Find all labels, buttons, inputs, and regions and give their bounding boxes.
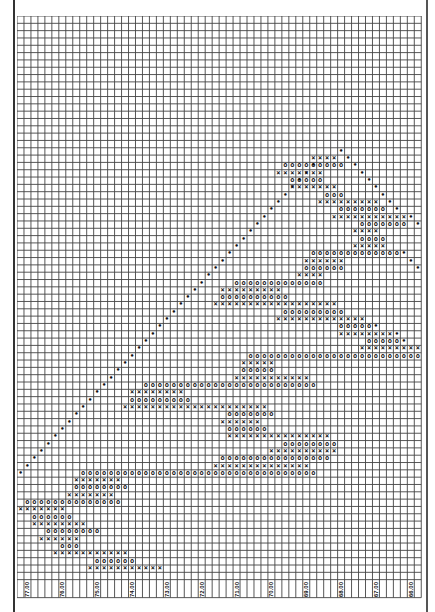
trend-dot: •	[393, 206, 400, 213]
o-box: o	[310, 280, 317, 287]
o-box: o	[372, 353, 379, 360]
x-box: ×	[240, 301, 247, 308]
x-box: ×	[289, 316, 296, 323]
trend-dot: •	[289, 184, 296, 191]
trend-dot: •	[338, 148, 345, 155]
x-box: ×	[268, 433, 275, 440]
trend-dot: •	[177, 301, 184, 308]
x-box: ×	[331, 448, 338, 455]
o-box: o	[324, 455, 331, 462]
o-box: o	[359, 250, 366, 257]
trend-dot: •	[73, 411, 80, 418]
o-box: o	[115, 484, 122, 491]
x-box: ×	[275, 301, 282, 308]
x-box: ×	[94, 565, 101, 572]
x-box: ×	[331, 316, 338, 323]
x-box: ×	[177, 404, 184, 411]
trend-dot: •	[66, 419, 73, 426]
o-box: o	[345, 353, 352, 360]
x-box: ×	[317, 316, 324, 323]
o-box: o	[393, 353, 400, 360]
x-box: ×	[163, 404, 170, 411]
o-box: o	[212, 382, 219, 389]
trend-dot: •	[359, 170, 366, 177]
price-tick-label: 71.00	[234, 582, 240, 597]
x-box: ×	[24, 506, 31, 513]
x-box: ×	[254, 433, 261, 440]
x-box: ×	[219, 301, 226, 308]
o-box: o	[303, 353, 310, 360]
o-box: o	[177, 470, 184, 477]
x-box: ×	[324, 199, 331, 206]
x-box: ×	[240, 433, 247, 440]
x-box: ×	[129, 404, 136, 411]
trend-dot: •	[240, 236, 247, 243]
o-box: o	[198, 382, 205, 389]
x-box: ×	[184, 404, 191, 411]
o-box: o	[296, 470, 303, 477]
o-box: o	[275, 470, 282, 477]
o-box: o	[400, 221, 407, 228]
trend-dot: •	[372, 184, 379, 191]
page-border-left	[13, 0, 15, 612]
o-box: o	[268, 470, 275, 477]
o-box: o	[386, 353, 393, 360]
x-box: ×	[296, 184, 303, 191]
o-box: o	[296, 280, 303, 287]
trend-dot: •	[233, 243, 240, 250]
x-box: ×	[52, 550, 59, 557]
x-box: ×	[303, 184, 310, 191]
o-box: o	[379, 221, 386, 228]
x-box: ×	[233, 433, 240, 440]
o-box: o	[303, 470, 310, 477]
trend-dot: •	[372, 323, 379, 330]
o-box: o	[352, 353, 359, 360]
trend-dot: •	[38, 448, 45, 455]
trend-dot: •	[400, 338, 407, 345]
x-box: ×	[142, 404, 149, 411]
x-box: ×	[282, 170, 289, 177]
x-box: ×	[303, 316, 310, 323]
x-box: ×	[338, 214, 345, 221]
o-box: o	[331, 162, 338, 169]
trend-dot: •	[310, 162, 317, 169]
o-box: o	[240, 470, 247, 477]
o-box: o	[226, 382, 233, 389]
o-box: o	[233, 382, 240, 389]
x-box: ×	[115, 565, 122, 572]
trend-dot: •	[108, 375, 115, 382]
x-box: ×	[359, 331, 366, 338]
o-box: o	[282, 382, 289, 389]
x-box: ×	[219, 419, 226, 426]
trend-dot: •	[17, 470, 24, 477]
x-box: ×	[317, 199, 324, 206]
price-tick-label: 67.00	[373, 582, 379, 597]
x-box: ×	[254, 301, 261, 308]
o-box: o	[317, 353, 324, 360]
trend-dot: •	[407, 214, 414, 221]
x-box: ×	[59, 550, 66, 557]
o-box: o	[268, 411, 275, 418]
o-box: o	[345, 250, 352, 257]
trend-dot: •	[296, 177, 303, 184]
x-box: ×	[38, 521, 45, 528]
o-box: o	[122, 484, 129, 491]
x-box: ×	[296, 316, 303, 323]
o-box: o	[261, 411, 268, 418]
x-box: ×	[219, 404, 226, 411]
o-box: o	[289, 382, 296, 389]
x-box: ×	[268, 301, 275, 308]
o-box: o	[142, 470, 149, 477]
x-box: ×	[212, 301, 219, 308]
o-box: o	[240, 382, 247, 389]
o-box: o	[80, 528, 87, 535]
trend-dot: •	[198, 280, 205, 287]
trend-dot: •	[219, 258, 226, 265]
trend-dot: •	[386, 199, 393, 206]
x-box: ×	[135, 404, 142, 411]
o-box: o	[407, 353, 414, 360]
trend-dot: •	[170, 309, 177, 316]
trend-dot: •	[184, 294, 191, 301]
trend-dot: •	[303, 170, 310, 177]
o-box: o	[87, 499, 94, 506]
